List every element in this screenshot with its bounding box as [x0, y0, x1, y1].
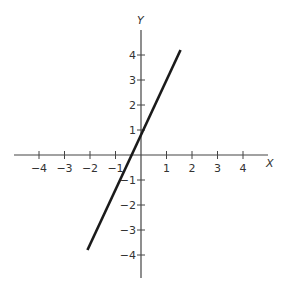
- x-tick-label: 2: [189, 162, 196, 175]
- y-tick-label: 2: [129, 99, 136, 112]
- x-tick-label: −4: [31, 162, 47, 175]
- axes: [14, 30, 268, 278]
- y-tick-label: −3: [120, 224, 136, 237]
- y-tick-label: −4: [120, 249, 136, 262]
- x-tick-label: 4: [240, 162, 247, 175]
- x-tick-label: 3: [214, 162, 221, 175]
- y-tick-label: 1: [129, 124, 136, 137]
- y-tick-label: 3: [129, 74, 136, 87]
- line-chart: −4−3−2−11234 4321−1−2−3−4 X Y: [0, 0, 286, 289]
- x-tick-label: −2: [82, 162, 98, 175]
- x-axis-label: X: [265, 157, 274, 170]
- x-tick-label: −3: [56, 162, 72, 175]
- y-tick-label: −2: [120, 199, 136, 212]
- y-axis-label: Y: [137, 14, 145, 27]
- x-tick-label: 1: [163, 162, 170, 175]
- y-tick-label: 4: [129, 49, 136, 62]
